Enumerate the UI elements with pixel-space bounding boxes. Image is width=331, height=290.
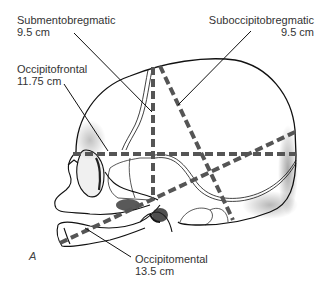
label-occipitofrontal: Occipitofrontal 11.75 cm	[17, 63, 87, 87]
label-submentobregmatic: Submentobregmatic 9.5 cm	[17, 14, 115, 38]
fetal-skull-diagram	[0, 0, 331, 290]
label-occipitofrontal-value: 11.75 cm	[17, 75, 87, 87]
label-submentobregmatic-name: Submentobregmatic	[17, 14, 115, 26]
label-occipitofrontal-name: Occipitofrontal	[17, 63, 87, 75]
label-suboccipitobregmatic: Suboccipitobregmatic 9.5 cm	[209, 14, 314, 38]
label-occipitomental-value: 13.5 cm	[135, 265, 208, 277]
label-occipitomental: Occipitomental 13.5 cm	[135, 253, 208, 277]
suboccipitobregmatic-diameter	[160, 66, 233, 220]
label-suboccipitobregmatic-name: Suboccipitobregmatic	[209, 14, 314, 26]
label-suboccipitobregmatic-value: 9.5 cm	[209, 26, 314, 38]
leader-suboccipitobregmatic	[178, 31, 251, 105]
panel-letter: A	[29, 250, 36, 262]
label-occipitomental-name: Occipitomental	[135, 253, 208, 265]
label-submentobregmatic-value: 9.5 cm	[17, 26, 115, 38]
cranium-outline	[74, 59, 298, 225]
leader-occipitomental	[85, 228, 131, 257]
coronal-suture	[122, 70, 152, 150]
